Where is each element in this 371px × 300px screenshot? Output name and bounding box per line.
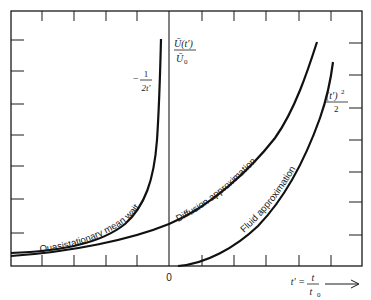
svg-text:t: t	[312, 272, 315, 283]
formula-square: (t') 2 2	[326, 88, 348, 114]
svg-text:0: 0	[317, 291, 321, 299]
chart: Quasistationary mean wait Diffusion appr…	[0, 0, 371, 300]
top-ticks	[42, 11, 331, 21]
fluid-label: Fluid approximation	[238, 164, 298, 235]
diffusion-curve	[11, 42, 317, 256]
origin-label: 0	[166, 272, 172, 283]
svg-text:2t': 2t'	[142, 83, 152, 93]
left-ticks	[11, 40, 24, 233]
x-axis-label: t' = t t 0	[291, 272, 321, 299]
quasistationary-curve	[11, 39, 161, 253]
svg-text:2: 2	[334, 104, 339, 114]
formula-inverse: − 1 2t'	[133, 69, 152, 93]
y-axis-label: Ū(t') Ū 0	[174, 38, 196, 66]
svg-text:2: 2	[341, 88, 345, 96]
svg-text:Ū(t'): Ū(t')	[174, 38, 193, 50]
diffusion-label: Diffusion approximation	[174, 155, 258, 224]
svg-text:1: 1	[144, 69, 149, 79]
svg-text:(t'): (t')	[326, 90, 338, 102]
svg-text:t: t	[310, 286, 313, 297]
svg-text:t' =: t' =	[291, 276, 305, 287]
x-axis-arrow-icon	[325, 280, 359, 288]
plot-frame	[11, 11, 362, 266]
svg-text:Ū: Ū	[176, 53, 184, 64]
svg-text:0: 0	[184, 58, 188, 66]
right-ticks	[349, 43, 362, 235]
svg-text:−: −	[133, 73, 139, 84]
